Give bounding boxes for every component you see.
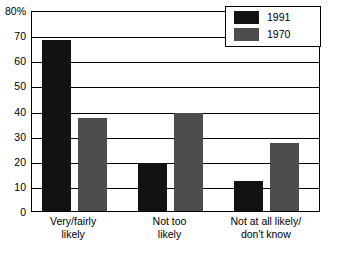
legend-label-1991: 1991 (267, 12, 290, 23)
x-axis-label-line: don't know (201, 228, 331, 241)
bar-1970-cat2 (270, 143, 299, 211)
x-axis-label: Not at all likely/don't know (201, 215, 331, 241)
x-axis-label-line: Not at all likely/ (201, 215, 331, 228)
legend: 1991 1970 (225, 6, 321, 47)
x-axis-category-labels: Very/fairlylikelyNot toolikelyNot at all… (31, 215, 320, 255)
y-tick-label: 40 (14, 106, 26, 117)
y-tick-label: 60 (14, 56, 26, 67)
y-tick-label: 80% (5, 6, 26, 17)
chart-title (31, 0, 320, 3)
y-axis: 01020304050607080% (0, 11, 29, 212)
bar-1991-cat0 (42, 40, 71, 211)
y-tick-label: 70 (14, 31, 26, 42)
y-tick-label: 10 (14, 182, 26, 193)
bar-1991-cat1 (138, 163, 167, 211)
y-tick-label: 30 (14, 131, 26, 142)
legend-item: 1991 (226, 9, 320, 26)
y-tick-label: 50 (14, 81, 26, 92)
bar-1970-cat1 (174, 113, 203, 211)
bar-1991-cat2 (234, 181, 263, 211)
legend-item: 1970 (226, 26, 320, 43)
bar-1970-cat0 (78, 118, 107, 211)
legend-swatch-1991 (234, 11, 259, 24)
legend-label-1970: 1970 (267, 29, 290, 40)
gridline (32, 87, 319, 88)
y-tick-label: 20 (14, 157, 26, 168)
bar-chart: 01020304050607080% Very/fairlylikelyNot … (0, 0, 337, 255)
gridline (32, 62, 319, 63)
legend-swatch-1970 (234, 28, 259, 41)
